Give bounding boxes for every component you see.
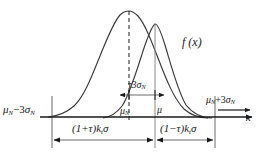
distribution-diagram: μN−3σN μN+3σN μN μ τ3σN (1+τ)ktσ (1−τ)kt… [0,0,266,153]
axis-label-mu-n: μN [120,106,129,117]
axis-label-mu: μ [157,105,162,115]
tau-span-label: τ3σN [128,80,146,91]
right-dimension-tail: σ [191,122,196,134]
right-bound-operator: +3 [215,94,226,105]
axis-label-right-bound: μN+3σN [206,95,235,106]
right-bound-sigma-subscript: N [231,98,235,105]
mu-n-subscript: N [125,109,129,116]
tau-span-text: τ3σ [128,79,142,90]
plot-canvas [0,0,266,153]
x-axis-label: x [246,112,251,123]
left-dimension-label: (1+τ)ktσ [72,123,108,135]
right-dimension-text: (1−τ)k [160,122,189,134]
left-dimension-text: (1+τ)k [72,122,101,134]
density-function-label: f (x) [182,36,202,48]
mu-symbol: μ [157,104,162,115]
left-dimension-tail: σ [103,122,108,134]
right-dimension-label: (1−τ)ktσ [160,123,196,135]
left-bound-sigma-subscript: N [30,109,35,116]
tau-span-subscript: N [142,83,146,90]
left-bound-operator: −3 [13,103,25,115]
axis-label-left-bound: μN−3σN [3,104,35,116]
